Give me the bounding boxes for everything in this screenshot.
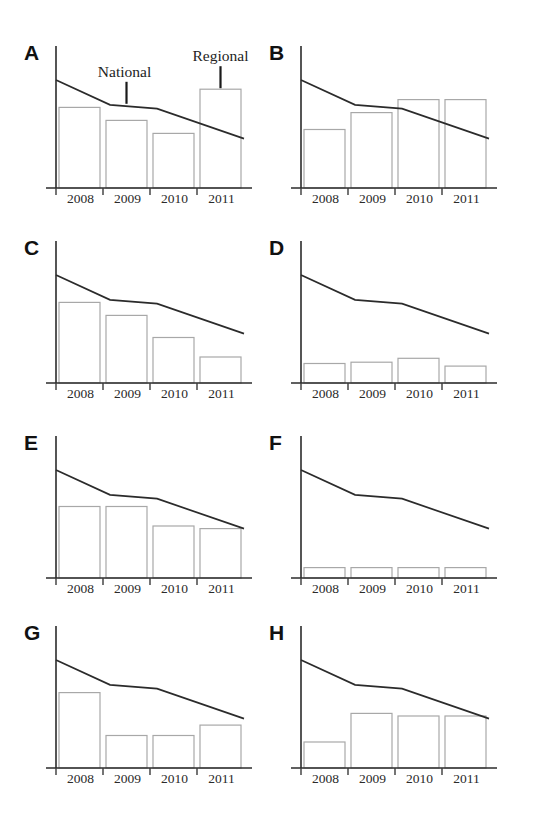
- bar-2010: [153, 736, 194, 769]
- chart-panel-g: G2008200920102011: [22, 620, 272, 800]
- x-tick-label-2010: 2010: [161, 191, 188, 206]
- x-tick-label-2009: 2009: [359, 581, 386, 596]
- bar-2009: [106, 120, 147, 188]
- x-tick-label-2008: 2008: [67, 386, 94, 401]
- x-tick-label-2011: 2011: [453, 771, 480, 786]
- x-tick-label-2009: 2009: [114, 581, 141, 596]
- x-tick-label-2010: 2010: [161, 386, 188, 401]
- figure-panel-grid: A2008200920102011NationalRegionalB200820…: [0, 0, 545, 834]
- chart-panel-c: C2008200920102011: [22, 235, 272, 415]
- bar-2008: [59, 693, 100, 768]
- x-tick-label-2011: 2011: [208, 771, 235, 786]
- chart-panel-e: E2008200920102011: [22, 430, 272, 610]
- bar-2011: [445, 568, 486, 578]
- x-tick-label-2011: 2011: [208, 386, 235, 401]
- x-tick-label-2008: 2008: [312, 581, 339, 596]
- bar-2009: [106, 507, 147, 579]
- panel-plot-h: 2008200920102011: [267, 620, 517, 800]
- x-tick-label-2011: 2011: [453, 386, 480, 401]
- panel-plot-g: 2008200920102011: [22, 620, 272, 800]
- x-tick-label-2008: 2008: [67, 771, 94, 786]
- bar-2009: [351, 362, 392, 383]
- bar-2010: [398, 100, 439, 188]
- panel-plot-c: 2008200920102011: [22, 235, 272, 415]
- chart-panel-a: A2008200920102011NationalRegional: [22, 40, 272, 220]
- panel-plot-e: 2008200920102011: [22, 430, 272, 610]
- bar-2008: [59, 302, 100, 383]
- bar-2010: [153, 526, 194, 578]
- bar-2008: [59, 507, 100, 579]
- panel-plot-f: 2008200920102011: [267, 430, 517, 610]
- bar-2009: [106, 315, 147, 383]
- x-tick-label-2010: 2010: [161, 581, 188, 596]
- bar-2008: [304, 364, 345, 384]
- panel-plot-a: 2008200920102011NationalRegional: [22, 40, 272, 220]
- bar-2009: [106, 736, 147, 769]
- trend-line-national: [301, 660, 489, 719]
- x-tick-label-2008: 2008: [312, 191, 339, 206]
- x-tick-label-2010: 2010: [406, 771, 433, 786]
- panel-plot-d: 2008200920102011: [267, 235, 517, 415]
- bar-2011: [445, 716, 486, 768]
- bar-2010: [153, 338, 194, 384]
- chart-panel-h: H2008200920102011: [267, 620, 517, 800]
- x-tick-label-2010: 2010: [406, 581, 433, 596]
- x-tick-label-2011: 2011: [208, 581, 235, 596]
- x-tick-label-2008: 2008: [312, 386, 339, 401]
- bar-2009: [351, 113, 392, 188]
- bar-2009: [351, 568, 392, 578]
- bar-2008: [59, 107, 100, 188]
- bar-2008: [304, 130, 345, 189]
- bar-2011: [200, 89, 241, 188]
- x-tick-label-2011: 2011: [453, 191, 480, 206]
- chart-panel-f: F2008200920102011: [267, 430, 517, 610]
- bar-2008: [304, 568, 345, 578]
- x-tick-label-2010: 2010: [161, 771, 188, 786]
- panel-plot-b: 2008200920102011: [267, 40, 517, 220]
- x-tick-label-2011: 2011: [208, 191, 235, 206]
- bar-2009: [351, 713, 392, 768]
- x-tick-label-2010: 2010: [406, 191, 433, 206]
- chart-panel-d: D2008200920102011: [267, 235, 517, 415]
- bar-2010: [398, 568, 439, 578]
- bar-2011: [445, 100, 486, 188]
- x-tick-label-2008: 2008: [312, 771, 339, 786]
- x-tick-label-2009: 2009: [114, 386, 141, 401]
- trend-line-national: [301, 470, 489, 528]
- trend-line-national: [301, 275, 489, 334]
- annotation-label-national: National: [98, 63, 151, 80]
- bar-2010: [398, 716, 439, 768]
- x-tick-label-2008: 2008: [67, 581, 94, 596]
- x-tick-label-2009: 2009: [359, 191, 386, 206]
- x-tick-label-2009: 2009: [359, 771, 386, 786]
- annotation-label-regional: Regional: [193, 47, 249, 64]
- bar-2011: [200, 725, 241, 768]
- bar-2008: [304, 742, 345, 768]
- x-tick-label-2011: 2011: [453, 581, 480, 596]
- bar-2010: [153, 133, 194, 188]
- bar-2010: [398, 358, 439, 383]
- x-tick-label-2009: 2009: [359, 386, 386, 401]
- x-tick-label-2009: 2009: [114, 191, 141, 206]
- chart-panel-b: B2008200920102011: [267, 40, 517, 220]
- bar-2011: [445, 366, 486, 383]
- x-tick-label-2010: 2010: [406, 386, 433, 401]
- bar-2011: [200, 357, 241, 383]
- x-tick-label-2008: 2008: [67, 191, 94, 206]
- x-tick-label-2009: 2009: [114, 771, 141, 786]
- bar-2011: [200, 529, 241, 578]
